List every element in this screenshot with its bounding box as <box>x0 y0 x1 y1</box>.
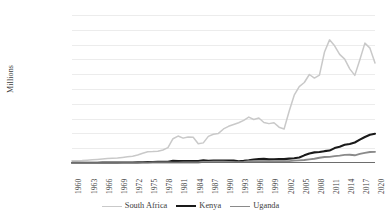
x-axis-tick-label: 2014 <box>348 184 356 194</box>
x-axis-tick-label: 1987 <box>212 184 220 194</box>
x-axis-tick-label: 2011 <box>333 184 341 194</box>
x-axis-tick-label: 1984 <box>197 184 205 194</box>
x-axis-tick-label: 1996 <box>257 184 265 194</box>
legend-swatch <box>102 206 122 207</box>
plot-area <box>72 15 375 163</box>
x-axis-tick-label: 1990 <box>227 184 235 194</box>
legend-swatch <box>176 205 196 207</box>
x-axis-tick-label: 1969 <box>121 184 129 194</box>
legend-label: South Africa <box>125 202 168 210</box>
x-axis-tick-label: 1978 <box>166 184 174 194</box>
x-axis-tick-label: 2002 <box>288 184 296 194</box>
x-axis-tick-label: 1975 <box>151 184 159 194</box>
series-line <box>72 40 375 161</box>
x-axis-tick-label: 1963 <box>91 184 99 194</box>
x-axis-tick-labels: 1960196319661969197219751978198119841987… <box>72 166 375 196</box>
legend-item[interactable]: Uganda <box>230 202 279 210</box>
x-axis-tick-label: 2017 <box>363 184 371 194</box>
x-axis-tick-label: 1960 <box>75 184 83 194</box>
legend-item[interactable]: South Africa <box>102 202 168 210</box>
legend-label: Kenya <box>199 202 221 210</box>
legend-item[interactable]: Kenya <box>176 202 221 210</box>
x-axis-tick-label: 2020 <box>378 184 386 194</box>
x-axis-tick-label: 1966 <box>106 184 114 194</box>
x-axis-line <box>72 162 375 163</box>
x-axis-tick-label: 2005 <box>303 184 311 194</box>
x-axis-tick-label: 1981 <box>181 184 189 194</box>
x-axis-tick-label: 1999 <box>272 184 280 194</box>
legend-swatch <box>230 206 250 207</box>
y-axis-tick-labels: 500 000450 000400 000350 000300 000250 0… <box>0 0 70 216</box>
x-axis-tick-label: 1993 <box>242 184 250 194</box>
legend: South AfricaKenyaUganda <box>0 199 381 213</box>
x-axis-tick-label: 2008 <box>318 184 326 194</box>
legend-label: Uganda <box>253 202 279 210</box>
series-lines <box>72 15 375 163</box>
x-axis-tick-label: 1972 <box>136 184 144 194</box>
